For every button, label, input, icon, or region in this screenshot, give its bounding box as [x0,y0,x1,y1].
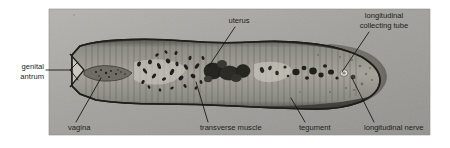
longitudinal-collecting-tube [340,70,348,77]
label-genital-antrum-line2: antrum [20,72,44,81]
label-transverse-muscle: transverse muscle [200,123,262,132]
label-genital-antrum-line1: genital [22,62,45,71]
label-longitudinal-collecting-tube-line1: longitudinal [365,11,404,20]
label-longitudinal-nerve: longitudinal nerve [364,123,424,132]
label-longitudinal-collecting-tube-line2: collecting tube [360,21,409,30]
longitudinal-nerve [351,75,355,79]
label-uterus: uterus [228,16,249,25]
worm-specimen [70,34,387,112]
anatomy-figure: genital antrum vagina uterus transverse … [0,0,450,148]
label-tegument: tegument [299,123,332,132]
label-vagina: vagina [68,123,91,132]
